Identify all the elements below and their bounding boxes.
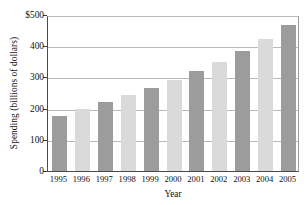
x-tick-label: 2005: [273, 175, 303, 184]
plot-area: [47, 16, 299, 172]
bar-1998: [121, 95, 136, 171]
y-tick-label: $500: [25, 11, 44, 20]
bar-2001: [189, 71, 204, 171]
gridline: [48, 16, 298, 17]
bar-2003: [235, 51, 250, 171]
bar-1997: [98, 102, 113, 171]
y-tick-label: 200: [30, 105, 44, 114]
bar-1996: [75, 109, 90, 171]
y-tick-label: 300: [30, 73, 44, 82]
x-axis-title: Year: [47, 189, 299, 199]
bar-2004: [258, 39, 273, 171]
y-tick-label: 100: [30, 136, 44, 145]
y-axis-title: Spending (billions of dollars): [9, 13, 19, 173]
bar-1999: [144, 88, 159, 171]
bar-chart-figure: Spending (billions of dollars) 010020030…: [0, 0, 307, 205]
bar-2000: [167, 80, 182, 171]
y-tick-label: 400: [30, 42, 44, 51]
bar-2005: [281, 25, 296, 171]
bar-2002: [212, 62, 227, 171]
bar-1995: [52, 116, 67, 171]
